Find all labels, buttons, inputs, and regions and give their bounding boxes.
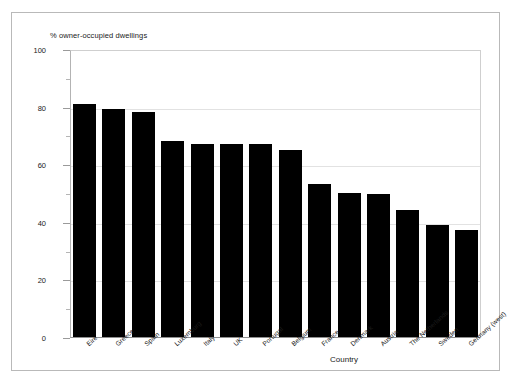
bar	[102, 109, 125, 337]
bar	[338, 193, 361, 337]
y-tick-mark	[63, 108, 70, 109]
bar	[396, 210, 419, 337]
plot-area	[70, 50, 481, 338]
y-tick-label: 0	[6, 334, 46, 343]
y-tick-mark	[63, 50, 70, 51]
y-tick-label: 40	[6, 218, 46, 227]
y-tick-label: 80	[6, 103, 46, 112]
bar	[455, 230, 478, 337]
bar-series	[71, 51, 480, 337]
y-axis-label: % owner-occupied dwellings	[50, 31, 147, 40]
bar	[249, 144, 272, 337]
x-axis-label: Country	[330, 355, 358, 364]
bar	[308, 184, 331, 337]
y-tick-label: 20	[6, 276, 46, 285]
bar	[132, 112, 155, 337]
bar	[191, 144, 214, 337]
y-tick-mark	[63, 223, 70, 224]
bar	[279, 150, 302, 337]
y-tick-label: 60	[6, 161, 46, 170]
bar	[220, 144, 243, 337]
y-tick-label: 100	[6, 46, 46, 55]
y-tick-mark	[63, 338, 70, 339]
chart-figure: % owner-occupied dwellings 020406080100 …	[11, 12, 500, 371]
bar	[73, 104, 96, 337]
y-tick-mark	[63, 165, 70, 166]
bar	[367, 194, 390, 337]
bar	[161, 141, 184, 337]
y-tick-mark	[63, 280, 70, 281]
